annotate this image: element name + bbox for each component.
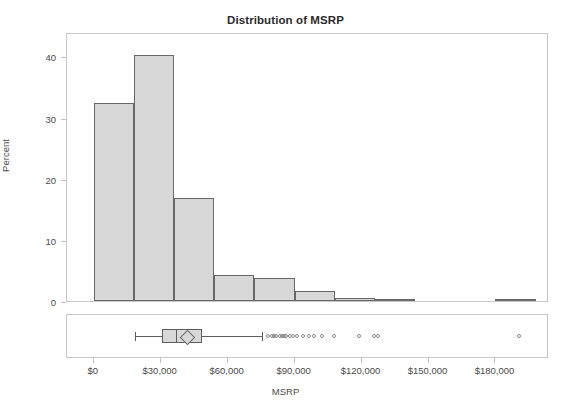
boxplot-outlier	[291, 334, 295, 338]
boxplot-outlier	[517, 334, 521, 338]
boxplot-cap-low	[135, 332, 136, 341]
boxplot-outlier	[301, 334, 305, 338]
histogram-bar	[375, 299, 415, 301]
histogram-bar	[295, 291, 335, 301]
boxplot-median-line	[176, 329, 177, 343]
histogram-bar	[94, 103, 134, 301]
y-tick-label: 20	[45, 174, 56, 185]
boxplot-outlier	[295, 334, 299, 338]
boxplot-outlier	[376, 334, 380, 338]
y-axis-label: Percent	[0, 139, 11, 172]
histogram-panel	[66, 33, 548, 302]
x-tick-mark	[361, 358, 362, 363]
chart-title: Distribution of MSRP	[0, 14, 571, 26]
x-tick-label: $0	[87, 365, 98, 376]
histogram-bar	[495, 299, 535, 301]
histogram-bar	[214, 275, 254, 301]
x-axis: $0$30,000$60,000$90,000$120,000$150,000$…	[66, 358, 548, 388]
boxplot-outlier	[320, 334, 324, 338]
y-tick-mark	[61, 302, 66, 303]
boxplot-whisker-high	[202, 336, 262, 337]
x-tick-mark	[227, 358, 228, 363]
y-tick-label: 10	[45, 235, 56, 246]
boxplot-outlier	[312, 334, 316, 338]
x-tick-label: $90,000	[276, 365, 310, 376]
boxplot-whisker-low	[135, 336, 162, 337]
y-tick-label: 40	[45, 52, 56, 63]
x-tick-mark	[428, 358, 429, 363]
histogram-bar	[134, 55, 174, 301]
y-tick-label: 0	[51, 297, 56, 308]
histogram-bar	[174, 198, 214, 301]
boxplot-plot-area	[67, 315, 547, 357]
x-tick-label: $150,000	[408, 365, 448, 376]
y-tick-label: 30	[45, 113, 56, 124]
x-tick-mark	[160, 358, 161, 363]
x-tick-mark	[294, 358, 295, 363]
histogram-plot-area	[67, 34, 547, 301]
x-tick-mark	[93, 358, 94, 363]
x-tick-label: $120,000	[341, 365, 381, 376]
boxplot-cap-high	[262, 332, 263, 341]
boxplot-outlier	[332, 334, 336, 338]
boxplot-outlier	[307, 334, 311, 338]
chart-figure: Distribution of MSRP 010203040 Percent $…	[0, 0, 571, 410]
histogram-bar	[254, 278, 294, 301]
x-tick-mark	[494, 358, 495, 363]
x-tick-label: $60,000	[209, 365, 243, 376]
x-tick-label: $30,000	[143, 365, 177, 376]
boxplot-panel	[66, 314, 548, 358]
histogram-bar	[335, 298, 375, 301]
x-tick-label: $180,000	[475, 365, 515, 376]
x-axis-label: MSRP	[0, 386, 571, 397]
boxplot-outlier	[357, 334, 361, 338]
